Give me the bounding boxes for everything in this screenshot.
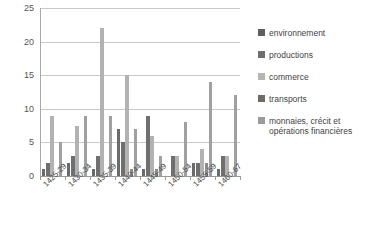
bar — [192, 163, 195, 176]
bar — [125, 75, 128, 176]
x-tick — [190, 176, 191, 180]
x-tick — [65, 176, 66, 180]
bar — [121, 142, 124, 176]
bar — [42, 169, 45, 176]
x-tick — [165, 176, 166, 180]
y-tick-label-10: 10 — [6, 105, 34, 114]
x-tick — [140, 176, 141, 180]
bar — [92, 169, 95, 176]
bar — [75, 126, 78, 176]
legend-item[interactable]: transports — [258, 94, 390, 104]
x-tick — [90, 176, 91, 180]
y-tick-label-15: 15 — [6, 71, 34, 80]
y-tick-label-0: 0 — [6, 172, 34, 181]
legend-label: commerce — [269, 72, 309, 82]
x-tick — [40, 176, 41, 180]
bar-group — [190, 8, 215, 176]
bar — [67, 163, 70, 176]
legend-label: environnement — [269, 28, 325, 38]
legend-swatch-icon — [258, 29, 265, 36]
y-axis-line — [40, 8, 41, 176]
bar — [50, 116, 53, 176]
bar-chart: 0510152025 1425-291430-341435-391440-441… — [0, 0, 392, 232]
chart-legend: environnementproductionscommercetranspor… — [258, 28, 390, 148]
y-tick-label-5: 5 — [6, 138, 34, 147]
legend-item[interactable]: commerce — [258, 72, 390, 82]
x-tick — [240, 176, 241, 180]
bar-group — [65, 8, 90, 176]
legend-label: transports — [269, 94, 307, 104]
legend-swatch-icon — [258, 51, 265, 58]
legend-label: monnaies, crécit et opérations financièr… — [269, 116, 352, 136]
legend-item[interactable]: productions — [258, 50, 390, 60]
legend-item[interactable]: monnaies, crécit et opérations financièr… — [258, 116, 390, 136]
bar-group — [90, 8, 115, 176]
bar-group — [215, 8, 240, 176]
legend-label: productions — [269, 50, 313, 60]
y-tick-label-20: 20 — [6, 38, 34, 47]
x-tick — [115, 176, 116, 180]
legend-swatch-icon — [258, 95, 265, 102]
x-tick — [215, 176, 216, 180]
bar-group — [40, 8, 65, 176]
bar — [146, 116, 149, 176]
plot-area — [40, 8, 240, 176]
bar-group — [140, 8, 165, 176]
y-tick-label-25: 25 — [6, 4, 34, 13]
bar — [100, 28, 103, 176]
bar — [142, 169, 145, 176]
bar — [117, 129, 120, 176]
bar — [217, 169, 220, 176]
legend-swatch-icon — [258, 117, 265, 124]
legend-item[interactable]: environnement — [258, 28, 390, 38]
bar-group — [165, 8, 190, 176]
bar-group — [115, 8, 140, 176]
legend-swatch-icon — [258, 73, 265, 80]
